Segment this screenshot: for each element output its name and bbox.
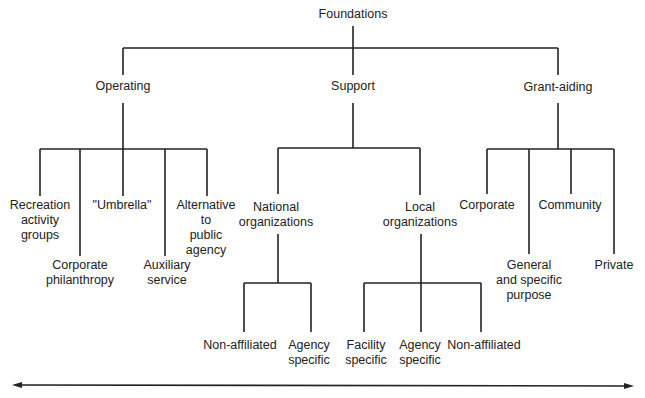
node-umbrella: "Umbrella" (93, 198, 152, 213)
node-national-non-affiliated: Non-affiliated (203, 338, 276, 353)
node-grant-corporate: Corporate (459, 198, 515, 213)
node-foundations: Foundations (319, 7, 388, 22)
node-grant-aiding: Grant-aiding (524, 80, 593, 95)
node-national-agency-specific: Agency specific (288, 338, 330, 368)
foundations-diagram: Foundations Operating Support Grant-aidi… (0, 0, 645, 398)
node-auxiliary-service: Auxiliary service (143, 258, 190, 288)
node-alternative-public-agency: Alternative to public agency (176, 198, 235, 258)
node-local-agency-specific: Agency specific (399, 338, 441, 368)
node-support: Support (331, 79, 375, 94)
node-operating: Operating (96, 79, 151, 94)
node-general-specific-purpose: General and specific purpose (496, 258, 562, 303)
node-community: Community (538, 198, 601, 213)
node-local-organizations: Local organizations (383, 200, 457, 230)
node-private: Private (595, 258, 634, 273)
node-national-organizations: National organizations (239, 200, 313, 230)
node-local-non-affiliated: Non-affiliated (447, 338, 520, 353)
node-corporate-philanthropy: Corporate philanthropy (46, 258, 114, 288)
node-recreation-activity-groups: Recreation activity groups (10, 198, 70, 243)
node-local-facility-specific: Facility specific (345, 338, 387, 368)
